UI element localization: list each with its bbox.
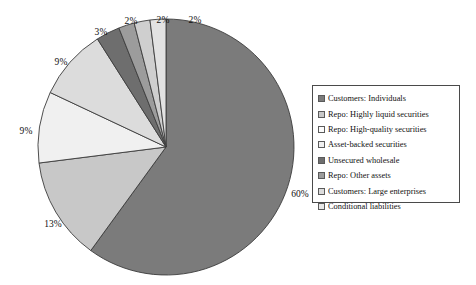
pie-slice-group xyxy=(38,19,294,275)
legend-item-label: Repo: High-quality securities xyxy=(328,125,427,134)
legend-item-label: Customers: Large enterprises xyxy=(328,187,426,196)
slice-label-9b: 9% xyxy=(55,57,68,67)
legend-item: Repo: Highly liquid securities xyxy=(318,106,455,121)
legend-swatch-icon xyxy=(318,172,325,179)
legend-item: Asset-backed securities xyxy=(318,137,455,152)
legend-swatch-icon xyxy=(318,188,325,195)
legend-swatch-icon xyxy=(318,95,325,102)
slice-label-2a: 2% xyxy=(125,16,138,26)
legend-swatch-icon xyxy=(318,141,325,148)
slice-label-2b: 2% xyxy=(157,15,170,25)
legend-item: Unsecured wholesale xyxy=(318,153,455,168)
legend-item: Customers: Large enterprises xyxy=(318,183,455,198)
slice-label-60: 60% xyxy=(291,189,309,199)
legend-swatch-icon xyxy=(318,111,325,118)
slice-label-2c: 2% xyxy=(189,15,202,25)
legend-item-label: Repo: Highly liquid securities xyxy=(328,110,429,119)
legend-item-label: Unsecured wholesale xyxy=(328,156,399,165)
slice-label-9a: 9% xyxy=(20,126,33,136)
legend-swatch-icon xyxy=(318,126,325,133)
legend-item: Customers: Individuals xyxy=(318,91,455,106)
slice-label-13: 13% xyxy=(44,219,62,229)
legend-item: Repo: High-quality securities xyxy=(318,122,455,137)
legend-item-label: Customers: Individuals xyxy=(328,94,406,103)
pie-chart-figure: 60% 13% 9% 9% 3% 2% 2% 2% Customers: Ind… xyxy=(0,0,476,285)
chart-legend: Customers: IndividualsRepo: Highly liqui… xyxy=(312,85,460,203)
legend-swatch-icon xyxy=(318,203,325,210)
legend-swatch-icon xyxy=(318,157,325,164)
slice-label-3: 3% xyxy=(95,27,108,37)
legend-item-label: Repo: Other assets xyxy=(328,171,391,180)
legend-item: Repo: Other assets xyxy=(318,168,455,183)
legend-item-label: Conditional liabilities xyxy=(328,202,401,211)
legend-item: Conditional liabilities xyxy=(318,199,455,214)
legend-item-label: Asset-backed securities xyxy=(328,140,407,149)
